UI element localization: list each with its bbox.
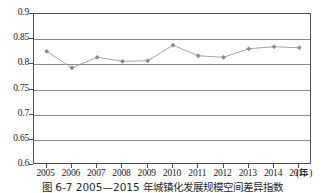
series-markers	[45, 43, 302, 70]
x-axis-tick-label: 2011	[188, 168, 206, 178]
y-axis-tick-label: 0.75	[0, 84, 29, 94]
data-point-marker	[95, 55, 99, 59]
data-point-marker	[247, 47, 251, 51]
x-axis-tick-label: 2008	[112, 168, 130, 178]
data-point-marker	[297, 46, 301, 50]
x-axis-tick-label: 2009	[138, 168, 156, 178]
x-axis-tick-label: 2006	[62, 168, 80, 178]
plot-area	[33, 13, 311, 164]
y-axis-tick-label: 0.7	[0, 109, 29, 119]
x-axis-unit-label: (年)	[296, 168, 312, 178]
y-axis-tick-label: 0.85	[0, 33, 29, 43]
data-point-marker	[146, 59, 150, 63]
figure-container: 0.60.650.70.750.80.850.9 200520062007200…	[0, 0, 325, 193]
series-urbanization-spatial-difference-index	[34, 14, 312, 165]
figure-caption: 图 6-7 2005—2015 年城镇化发展规模空间差异指数	[0, 181, 325, 193]
y-axis-tick-label: 0.65	[0, 134, 29, 144]
y-axis-tick-label: 0.9	[0, 8, 29, 18]
x-axis-tick-label: 2013	[239, 168, 257, 178]
data-point-marker	[171, 43, 175, 47]
x-axis-tick-label: 2007	[87, 168, 105, 178]
y-axis-tick-label: 0.8	[0, 58, 29, 68]
x-axis-tick-label: 2010	[163, 168, 181, 178]
data-point-marker	[221, 55, 225, 59]
y-axis-tick-label: 0.6	[0, 159, 29, 169]
x-axis-tick-label: 2005	[37, 168, 55, 178]
x-axis-tick-label: 2014	[264, 168, 282, 178]
y-axis-tick-mark	[29, 164, 33, 165]
data-point-marker	[272, 45, 276, 49]
x-axis-tick-label: 2012	[213, 168, 231, 178]
data-point-marker	[196, 54, 200, 58]
data-point-marker	[120, 59, 124, 63]
series-line	[47, 45, 300, 68]
